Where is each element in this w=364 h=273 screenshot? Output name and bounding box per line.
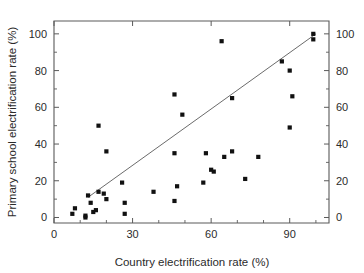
y-tick-label: 100 xyxy=(29,28,47,40)
scatter-plot-figure: 0306090002020404060608080100100 Country … xyxy=(0,0,364,273)
x-tick-label: 30 xyxy=(126,228,138,240)
data-point xyxy=(120,181,124,185)
data-point xyxy=(123,212,127,216)
y-tick-label-right: 100 xyxy=(336,28,354,40)
data-point xyxy=(222,155,226,159)
data-point xyxy=(288,125,292,129)
data-point xyxy=(288,68,292,72)
data-point xyxy=(83,215,87,219)
tick-labels: 0306090002020404060608080100100 xyxy=(29,28,355,240)
data-point xyxy=(230,149,234,153)
plot-canvas: 0306090002020404060608080100100 Country … xyxy=(0,0,364,273)
data-point xyxy=(104,149,108,153)
data-point xyxy=(230,96,234,100)
data-point xyxy=(311,37,315,41)
data-point xyxy=(96,190,100,194)
data-point xyxy=(172,92,176,96)
data-point xyxy=(89,201,93,205)
data-point xyxy=(311,32,315,36)
data-point xyxy=(123,201,127,205)
data-point xyxy=(290,94,294,98)
data-point xyxy=(201,181,205,185)
y-tick-label-right: 80 xyxy=(336,65,348,77)
data-point xyxy=(70,212,74,216)
data-point xyxy=(94,208,98,212)
y-tick-label: 60 xyxy=(35,101,47,113)
y-tick-label-right: 0 xyxy=(336,211,342,223)
y-tick-label: 20 xyxy=(35,175,47,187)
y-tick-label: 0 xyxy=(41,211,47,223)
y-axis-title: Primary school electrification rate (%) xyxy=(6,27,18,218)
y-tick-label-right: 60 xyxy=(336,101,348,113)
x-tick-label: 60 xyxy=(205,228,217,240)
data-point xyxy=(104,197,108,201)
data-point xyxy=(212,169,216,173)
x-tick-label: 90 xyxy=(284,228,296,240)
data-point xyxy=(172,151,176,155)
data-point xyxy=(86,193,90,197)
y-tick-label: 40 xyxy=(35,138,47,150)
data-point xyxy=(220,39,224,43)
minor-ticks xyxy=(54,52,329,223)
data-point xyxy=(151,190,155,194)
regression-line xyxy=(88,34,316,197)
data-point xyxy=(96,124,100,128)
data-point xyxy=(172,199,176,203)
x-axis-title: Country electrification rate (%) xyxy=(115,256,270,268)
trend-line xyxy=(88,34,316,197)
data-point xyxy=(102,192,106,196)
x-tick-label: 0 xyxy=(51,228,57,240)
data-point xyxy=(256,155,260,159)
data-point xyxy=(243,177,247,181)
data-point xyxy=(180,113,184,117)
y-tick-label-right: 40 xyxy=(336,138,348,150)
y-tick-label-right: 20 xyxy=(336,175,348,187)
y-tick-label: 80 xyxy=(35,65,47,77)
data-markers xyxy=(70,32,315,220)
data-point xyxy=(204,151,208,155)
data-point xyxy=(280,59,284,63)
data-point xyxy=(175,184,179,188)
data-point xyxy=(73,206,77,210)
